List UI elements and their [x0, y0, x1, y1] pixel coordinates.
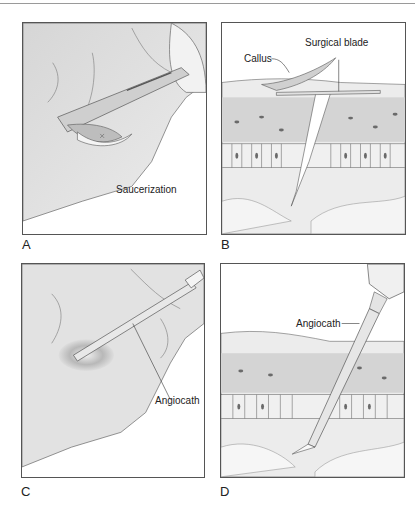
- callout-angiocath-d: Angiocath: [296, 318, 340, 329]
- foot-scalpel-illustration: [23, 23, 206, 234]
- callout-callus: Callus: [244, 53, 272, 64]
- foot-angiocath-illustration: [22, 264, 204, 477]
- panel-label-c: C: [21, 484, 30, 499]
- callout-surgical-blade: Surgical blade: [305, 37, 368, 48]
- panel-label-a: A: [22, 237, 31, 252]
- skin-angiocath-section-illustration: [221, 264, 404, 477]
- panel-d-angiocath-section: Angiocath: [220, 263, 405, 478]
- panel-label-d: D: [220, 484, 229, 499]
- panel-label-b: B: [221, 237, 230, 252]
- callout-saucerization: Saucerization: [116, 184, 177, 195]
- panel-a-saucerization: Saucerization: [22, 22, 207, 235]
- top-rule: [0, 3, 415, 4]
- callout-angiocath-c: Angiocath: [155, 395, 199, 406]
- panel-c-angiocath-foot: Angiocath: [21, 263, 205, 478]
- panel-b-cross-section: Callus Surgical blade: [221, 22, 406, 235]
